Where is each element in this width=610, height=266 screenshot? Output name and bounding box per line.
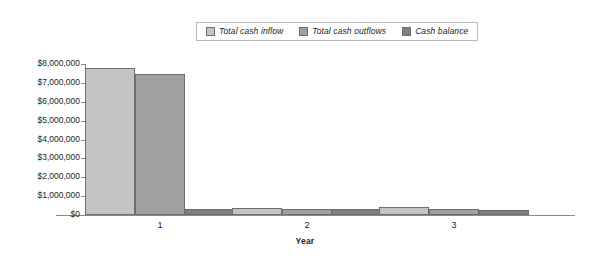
bar-chart-plot: $8,000,000$7,000,000$6,000,000$5,000,000…	[0, 0, 610, 266]
bar	[429, 209, 479, 215]
bar	[282, 209, 332, 215]
bar	[479, 210, 529, 215]
bar	[185, 209, 235, 215]
x-axis-tick-label: 2	[287, 221, 327, 230]
x-axis-title: Year	[0, 236, 610, 246]
x-axis-tick-label: 1	[140, 221, 180, 230]
bar	[135, 74, 185, 215]
bar	[379, 207, 429, 215]
x-axis-tick-label: 3	[434, 221, 474, 230]
bar	[232, 208, 282, 215]
bar	[85, 68, 135, 215]
bar	[332, 209, 382, 215]
